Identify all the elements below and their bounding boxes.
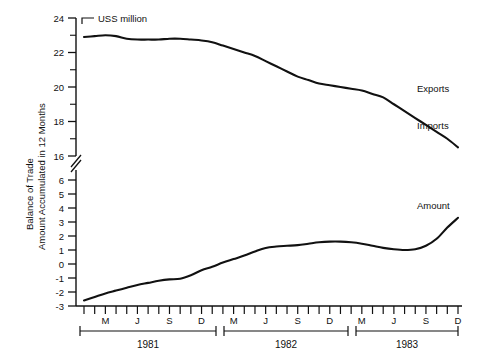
series-label-imports: Imports [417,120,449,131]
series-label-exports: Exports [417,83,449,94]
y-tick-label-6: 6 [59,175,64,186]
year-label-1981: 1981 [137,339,160,350]
x-tick-label-m: M [358,315,366,326]
axis-break-icon [71,155,81,172]
x-tick-label-j: J [135,315,140,326]
x-tick-label-m: M [101,315,109,326]
unit-label: USS million [98,13,147,24]
y-axis-title-line1: Balance of Trade [24,158,35,230]
series-line-exports-imports [84,35,458,147]
y-tick-label-1: 1 [59,245,64,256]
y-tick-label-minus3: -3 [56,301,64,312]
y-tick-label-0: 0 [59,259,64,270]
y-tick-label-minus2: -2 [56,287,64,298]
y-tick-label-4: 4 [59,203,64,214]
x-tick-label-d: D [455,315,462,326]
y-tick-label-20: 20 [53,82,64,93]
y-tick-label-2: 2 [59,231,64,242]
y-tick-label-3: 3 [59,217,64,228]
y-tick-label-5: 5 [59,189,64,200]
balance-of-trade-chart: 24 22 20 18 16 6 5 4 [0,0,492,360]
x-tick-label-s: S [423,315,429,326]
year-bracket-1983: 1983 [356,326,458,350]
y-tick-label-24: 24 [53,13,64,24]
x-axis-month-ticks [84,306,458,314]
y-tick-label-16: 16 [53,151,64,162]
x-tick-label-m: M [230,315,238,326]
x-tick-label-d: D [198,315,205,326]
x-tick-label-s: S [166,315,172,326]
x-axis-month-labels: MJSDMJSDMJSD [101,315,461,326]
year-label-1983: 1983 [396,339,419,350]
y-tick-label-minus1: -1 [56,273,64,284]
x-tick-label-j: J [392,315,397,326]
year-label-1982: 1982 [275,339,298,350]
x-tick-label-j: J [263,315,268,326]
series-label-amount: Amount [417,200,450,211]
series-line-amount [84,218,458,301]
y-axis-upper-ticks: 24 22 20 18 16 [53,13,76,162]
y-tick-label-22: 22 [53,47,64,58]
y-axis-lower-ticks: 6 5 4 3 2 1 0 -1 -2 -3 [56,175,76,312]
x-tick-label-d: D [326,315,333,326]
y-axis-title-line2: Amount Accumulated in 12 Months [36,103,47,250]
year-bracket-1982: 1982 [224,326,348,350]
x-tick-label-s: S [295,315,301,326]
unit-label-group: USS million [82,13,147,25]
y-tick-label-18: 18 [53,116,64,127]
chart-svg: 24 22 20 18 16 6 5 4 [0,0,492,360]
year-bracket-1981: 1981 [80,326,216,350]
